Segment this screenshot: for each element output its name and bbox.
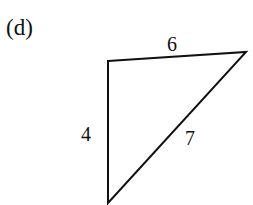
side-label-hypotenuse: 7 <box>185 128 195 148</box>
side-label-top: 6 <box>167 34 177 54</box>
part-label: (d) <box>6 16 33 39</box>
triangle-outline <box>108 52 246 203</box>
triangle-figure <box>0 0 253 205</box>
side-label-left: 4 <box>81 124 91 144</box>
